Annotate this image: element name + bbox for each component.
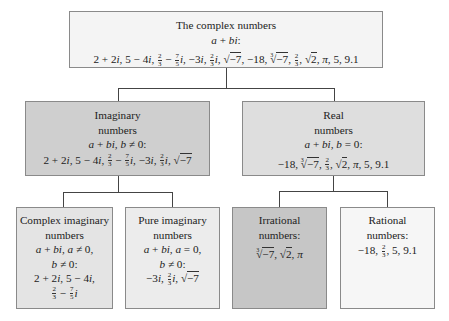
rational-heading-line2: numbers:: [341, 228, 434, 243]
rational-heading-line1: Rational: [341, 213, 434, 228]
connector-to-imaginary: [118, 88, 119, 101]
real-heading-line1: Real: [243, 108, 424, 123]
rational-numbers-box: Rational numbers: −18, 23, 5, 9.1: [340, 207, 435, 309]
complex-imaginary-examples-line2: 23 − 75i: [17, 286, 112, 302]
pure-imaginary-numbers-box: Pure imaginary numbers a + bi, a = 0, b …: [125, 207, 220, 309]
connector-real-bar: [279, 191, 388, 192]
pure-imaginary-heading-line1: Pure imaginary: [126, 213, 219, 228]
complex-imaginary-condition-line2: b ≠ 0:: [17, 257, 112, 272]
rational-examples: −18, 23, 5, 9.1: [341, 243, 434, 259]
irrational-heading-line2: numbers:: [233, 228, 326, 243]
real-heading-line2: numbers: [243, 123, 424, 138]
connector-root-bar: [118, 88, 335, 89]
imaginary-heading-line2: numbers: [26, 123, 209, 138]
irrational-heading-line1: Irrational: [233, 213, 326, 228]
imaginary-heading-line1: Imaginary: [26, 108, 209, 123]
complex-imaginary-condition-line1: a + bi, a ≠ 0,: [17, 242, 112, 257]
complex-numbers-box: The complex numbers a + bi: 2 + 2i, 5 − …: [69, 11, 383, 68]
connector-real-stem: [333, 176, 334, 191]
real-numbers-box: Real numbers a + bi, b = 0: −18, 3√−7, 2…: [242, 101, 425, 176]
connector-to-pure-imaginary: [172, 192, 173, 207]
pure-imaginary-examples: −3i, 23i, √−7: [126, 271, 219, 287]
complex-imaginary-heading-line1: Complex imaginary: [17, 213, 112, 228]
connector-to-rational: [387, 191, 388, 207]
real-examples: −18, 3√−7, 23, √2, π, 5, 9.1: [243, 153, 424, 173]
complex-imaginary-heading-line2: numbers: [17, 228, 112, 243]
complex-imaginary-examples-line1: 2 + 2i, 5 − 4i,: [17, 271, 112, 286]
complex-numbers-heading: The complex numbers: [70, 18, 382, 33]
irrational-examples: 3√−7, √2, π: [233, 243, 326, 262]
imaginary-examples: 2 + 2i, 5 − 4i, 23 − 75i, −3i, 23i, √−7: [26, 153, 209, 169]
connector-imaginary-stem: [118, 176, 119, 192]
real-condition: a + bi, b = 0:: [243, 137, 424, 152]
pure-imaginary-heading-line2: numbers: [126, 228, 219, 243]
pure-imaginary-condition-line1: a + bi, a = 0,: [126, 242, 219, 257]
connector-to-real: [334, 88, 335, 101]
imaginary-condition: a + bi, b ≠ 0:: [26, 137, 209, 152]
connector-to-complex-imaginary: [63, 192, 64, 207]
irrational-numbers-box: Irrational numbers: 3√−7, √2, π: [232, 207, 327, 309]
imaginary-numbers-box: Imaginary numbers a + bi, b ≠ 0: 2 + 2i,…: [25, 101, 210, 176]
complex-imaginary-numbers-box: Complex imaginary numbers a + bi, a ≠ 0,…: [16, 207, 113, 309]
connector-imaginary-bar: [63, 192, 173, 193]
connector-to-irrational: [279, 191, 280, 207]
complex-numbers-condition: a + bi:: [70, 33, 382, 48]
connector-root-stem: [226, 68, 227, 88]
pure-imaginary-condition-line2: b ≠ 0:: [126, 257, 219, 272]
complex-numbers-examples: 2 + 2i, 5 − 4i, 23 − 75i, −3i, 23i, √−7,…: [70, 48, 382, 68]
